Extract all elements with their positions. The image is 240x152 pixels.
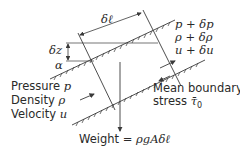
label-delta-z: δz xyxy=(49,44,62,57)
label-left-density-symbol: ρ xyxy=(58,93,65,107)
label-alpha: α xyxy=(55,59,63,72)
label-left-density-text: Density xyxy=(11,93,58,107)
label-delta-l: δℓ xyxy=(101,13,113,26)
label-left-pressure-text: Pressure xyxy=(11,79,64,93)
label-stress-subscript: 0 xyxy=(197,101,202,110)
label-left-velocity-symbol: u xyxy=(60,107,67,121)
label-left-velocity: Velocity u xyxy=(11,108,67,121)
label-weight: Weight = ρgAδℓ xyxy=(79,133,170,146)
label-weight-text: Weight = xyxy=(79,132,136,146)
flow-arrow-left xyxy=(80,94,94,100)
label-left-velocity-text: Velocity xyxy=(11,107,60,121)
label-left-pressure: Pressure p xyxy=(11,80,71,93)
label-left-density: Density ρ xyxy=(11,94,65,107)
label-stress: stress τ̄0 xyxy=(153,95,202,112)
flow-arrow-right xyxy=(160,61,175,68)
label-weight-formula: ρgAδℓ xyxy=(136,132,170,146)
label-left-pressure-symbol: p xyxy=(64,79,71,93)
upper-boundary-wall xyxy=(50,20,175,80)
label-right-velocity: u + δu xyxy=(175,44,214,57)
label-stress-text: stress xyxy=(153,94,191,108)
